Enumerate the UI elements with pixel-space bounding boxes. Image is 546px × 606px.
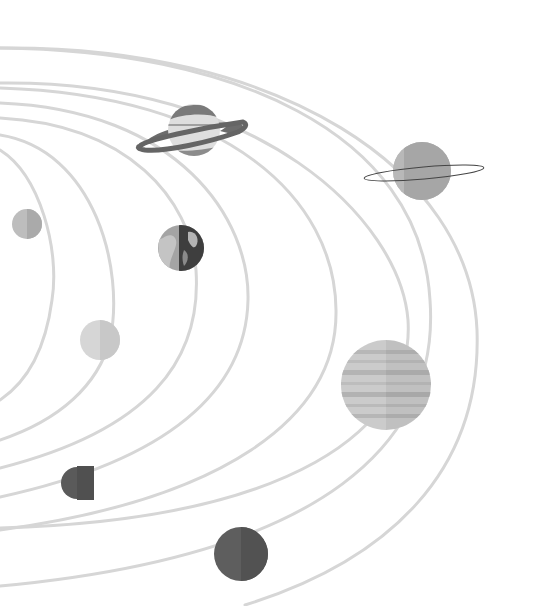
planet-jupiter	[340, 338, 432, 433]
orbit-mercury	[0, 150, 54, 400]
planet-mars	[61, 466, 94, 500]
orbit-mars	[0, 103, 248, 497]
planet-uranus	[364, 142, 485, 202]
orbit-venus	[0, 135, 114, 440]
solar-system-illustration	[0, 0, 546, 606]
planet-venus	[80, 318, 124, 363]
planet-earth	[158, 222, 207, 274]
planet-neptune	[214, 527, 268, 581]
orbit-earth	[0, 118, 196, 468]
